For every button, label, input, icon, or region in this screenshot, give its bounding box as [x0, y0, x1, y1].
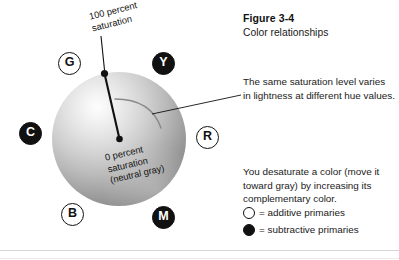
- desaturate-note: You desaturate a color (move it toward g…: [243, 165, 399, 206]
- saturation-radius-line: [105, 74, 120, 140]
- outer-label-leader-line: [101, 36, 105, 70]
- legend-item-additive-label: = additive primaries: [259, 206, 345, 219]
- filled-circle-icon: [243, 224, 255, 236]
- outer-saturation-dot: [101, 70, 108, 77]
- legend-item-additive: = additive primaries: [243, 205, 399, 220]
- figure-bottom-rule-secondary: [0, 258, 399, 259]
- legend-item-subtractive-label: = subtractive primaries: [259, 223, 359, 236]
- hue-note-leader-line: [152, 95, 241, 114]
- hue-lightness-note: The same saturation level varies in ligh…: [243, 75, 395, 102]
- figure-title: Figure 3-4: [243, 12, 294, 24]
- hue-marker-red: R: [196, 126, 219, 149]
- figure-container: 100 percent saturation 0 percent saturat…: [0, 0, 399, 260]
- hue-marker-blue: B: [61, 203, 84, 226]
- center-saturation-dot: [116, 136, 123, 143]
- hue-marker-yellow: Y: [152, 52, 175, 75]
- open-circle-icon: [243, 207, 255, 219]
- figure-subtitle: Color relationships: [243, 27, 328, 38]
- hue-marker-green: G: [58, 52, 81, 75]
- legend: = additive primaries = subtractive prima…: [243, 205, 399, 239]
- hue-marker-cyan: C: [19, 122, 42, 145]
- figure-bottom-rule: [0, 250, 399, 251]
- hue-marker-magenta: M: [152, 206, 175, 229]
- legend-item-subtractive: = subtractive primaries: [243, 222, 399, 237]
